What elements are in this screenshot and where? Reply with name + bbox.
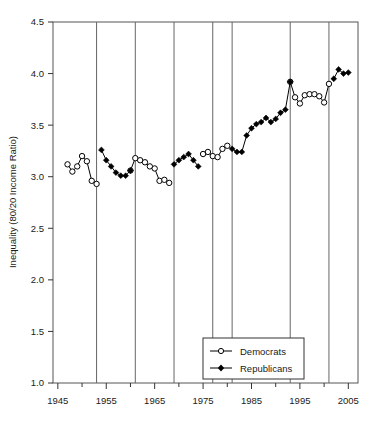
x-tick-label: 1985	[241, 395, 262, 406]
y-tick-label: 4.5	[31, 16, 44, 27]
series-republicans	[99, 67, 352, 179]
data-point-open-circle	[142, 160, 147, 165]
chart-legend: Democrats Republicans	[203, 338, 304, 379]
data-point-open-circle	[205, 149, 210, 154]
x-tick-label: 1955	[96, 395, 117, 406]
legend-label-democrats: Democrats	[240, 346, 286, 357]
data-point-filled-diamond	[345, 70, 351, 76]
y-tick-label: 3.0	[31, 171, 44, 182]
series-democrats	[65, 79, 332, 187]
data-point-open-circle	[79, 153, 84, 158]
data-series-layer	[65, 67, 351, 187]
data-point-open-circle	[297, 101, 302, 106]
open-circle-icon	[218, 348, 223, 353]
data-point-filled-diamond	[282, 107, 288, 113]
plot-frame	[53, 22, 358, 383]
data-point-open-circle	[152, 166, 157, 171]
y-tick-label: 2.0	[31, 274, 44, 285]
x-tick-label: 1995	[289, 395, 310, 406]
data-point-open-circle	[84, 159, 89, 164]
data-point-open-circle	[225, 143, 230, 148]
series-line	[232, 82, 290, 152]
y-axis-title: Inequality (80/20 Income Ratio)	[7, 136, 18, 268]
x-axis: 1945195519651975198519952005	[47, 383, 359, 406]
data-point-filled-diamond	[99, 147, 105, 153]
data-point-open-circle	[70, 169, 75, 174]
data-point-open-circle	[94, 181, 99, 186]
data-point-open-circle	[326, 81, 331, 86]
y-tick-label: 2.5	[31, 223, 44, 234]
x-tick-label: 1945	[47, 395, 68, 406]
chart-canvas: 1.01.52.02.53.03.54.04.5 194519551965197…	[0, 0, 376, 432]
data-point-filled-diamond	[244, 133, 250, 139]
data-point-filled-diamond	[331, 76, 337, 82]
y-tick-label: 1.0	[31, 377, 44, 388]
x-tick-label: 2005	[338, 395, 359, 406]
data-point-open-circle	[65, 162, 70, 167]
plot-area-border	[53, 22, 358, 383]
data-point-open-circle	[317, 94, 322, 99]
y-tick-label: 4.0	[31, 68, 44, 79]
x-tick-label: 1975	[193, 395, 214, 406]
y-tick-label: 1.5	[31, 326, 44, 337]
inequality-line-chart: 1.01.52.02.53.03.54.04.5 194519551965197…	[0, 0, 376, 432]
party-change-gridlines	[97, 22, 329, 383]
data-point-filled-diamond	[181, 154, 187, 160]
legend-label-republicans: Republicans	[240, 363, 293, 374]
data-point-open-circle	[321, 100, 326, 105]
y-tick-label: 3.5	[31, 120, 44, 131]
y-axis: 1.01.52.02.53.03.54.04.5	[31, 16, 53, 388]
data-point-open-circle	[75, 164, 80, 169]
x-tick-label: 1965	[144, 395, 165, 406]
data-point-filled-diamond	[239, 149, 245, 155]
data-point-open-circle	[292, 95, 297, 100]
data-point-open-circle	[166, 180, 171, 185]
data-point-open-circle	[215, 154, 220, 159]
